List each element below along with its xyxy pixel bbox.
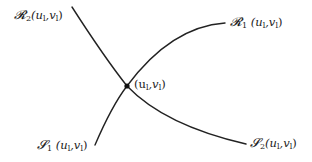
label-r2: 𝓡2(ul,vl): [14, 9, 63, 23]
intersection-point: [124, 83, 129, 88]
curve-r2: [72, 7, 246, 144]
label-intersection: (ul,vl): [134, 79, 166, 92]
label-r1: 𝓡1 (ul,vl): [230, 16, 282, 30]
label-s2: 𝓢2(ul,vl): [250, 137, 297, 151]
label-s1: 𝓢1 (ul,vl): [37, 139, 87, 153]
